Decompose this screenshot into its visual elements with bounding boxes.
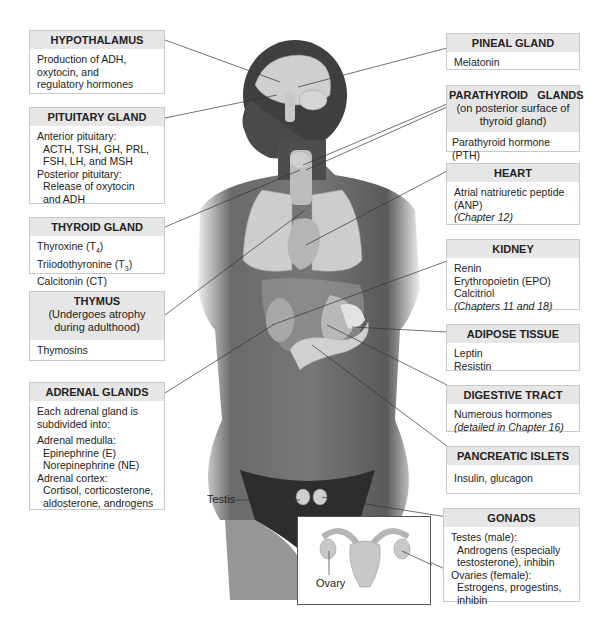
text-line: Adrenal cortex: [37, 472, 157, 485]
thymus-box: THYMUS (Undergoes atrophy during adultho… [29, 291, 165, 361]
text-line: inhibin [451, 594, 572, 607]
text-line: Estrogens, progestins, [451, 581, 572, 594]
text-line: oxytocin, and [37, 66, 157, 79]
text-line: and ADH [37, 193, 157, 206]
kidney-box: KIDNEY Renin Erythropoietin (EPO) Calcit… [446, 239, 580, 310]
heart-title: HEART [447, 164, 579, 182]
text-line: Production of ADH, [37, 53, 157, 66]
thyroid-title: THYROID GLAND [30, 218, 164, 236]
parathyroid-title: PARATHYROID GLANDS [449, 89, 584, 101]
chapter-reference: (Chapters 11 and 18) [454, 300, 572, 313]
text-line: Thymosins [37, 344, 157, 357]
thymus-title: THYMUS [74, 295, 120, 307]
text-line: regulatory hormones [37, 78, 157, 91]
parathyroid-box: PARATHYROID GLANDS (on posterior surface… [446, 85, 580, 152]
text-line: Triiodothyronine (T3) [37, 258, 157, 276]
text-line: Erythropoietin (EPO) [454, 275, 572, 288]
pituitary-title: PITUITARY GLAND [30, 108, 164, 126]
thyroid-box: THYROID GLAND Thyroxine (T4) Triiodothyr… [29, 217, 165, 274]
parathyroid-subtitle: (on posterior surface of [449, 102, 577, 115]
adipose-title: ADIPOSE TISSUE [447, 325, 579, 343]
ovary-label: Ovary [316, 577, 345, 589]
pancreatic-box: PANCREATIC ISLETS Insulin, glucagon [446, 446, 580, 494]
adrenal-box: ADRENAL GLANDS Each adrenal gland is sub… [29, 382, 165, 510]
text-line: aldosterone, androgens [37, 497, 157, 510]
ovary-inset: Ovary [297, 516, 431, 605]
text-line: Each adrenal gland is [37, 405, 157, 418]
text-line: Thyroxine (T4) [37, 240, 157, 258]
text-line: Numerous hormones [454, 408, 572, 421]
text-line: Androgens (especially [451, 544, 572, 557]
text-line: Adrenal medulla: [37, 434, 157, 447]
hypothalamus-title: HYPOTHALAMUS [30, 31, 164, 49]
heart-box: HEART Atrial natriuretic peptide (ANP) (… [446, 163, 580, 225]
text-line: (ANP) [454, 199, 572, 212]
text-line: Melatonin [454, 56, 572, 69]
pineal-box: PINEAL GLAND Melatonin [446, 33, 580, 70]
text-line: Release of oxytocin [37, 180, 157, 193]
testis-label: Testis [207, 493, 235, 505]
text-line: Anterior pituitary: [37, 130, 157, 143]
text-line: Atrial natriuretic peptide [454, 186, 572, 199]
text-line: Testes (male): [451, 531, 572, 544]
text-line: Renin [454, 262, 572, 275]
text-line: Insulin, glucagon [454, 472, 572, 485]
kidney-title: KIDNEY [447, 240, 579, 258]
chapter-reference: (Chapter 12) [454, 211, 572, 224]
text-line: Leptin [454, 347, 572, 360]
text-line: Norepinephrine (NE) [37, 459, 157, 472]
uterus-illustration [298, 517, 432, 606]
text-line: ACTH, TSH, GH, PRL, [37, 143, 157, 156]
text-line: subdivided into: [37, 418, 157, 431]
text-line: Posterior pituitary: [37, 168, 157, 181]
pituitary-box: PITUITARY GLAND Anterior pituitary: ACTH… [29, 107, 165, 204]
text-line: Resistin [454, 360, 572, 373]
adrenal-title: ADRENAL GLANDS [30, 383, 164, 401]
text-line: Ovaries (female): [451, 569, 572, 582]
text-line: Parathyroid hormone (PTH) [452, 136, 572, 161]
digestive-title: DIGESTIVE TRACT [447, 386, 579, 404]
adipose-box: ADIPOSE TISSUE Leptin Resistin [446, 324, 580, 371]
hypothalamus-box: HYPOTHALAMUS Production of ADH, oxytocin… [29, 30, 165, 94]
gonads-title: GONADS [444, 509, 579, 527]
gonads-box: GONADS Testes (male): Androgens (especia… [443, 508, 580, 602]
thymus-subtitle: (Undergoes atrophy [32, 308, 162, 321]
pineal-title: PINEAL GLAND [447, 34, 579, 52]
text-line: Calcitriol [454, 287, 572, 300]
text-line: testosterone), inhibin [451, 556, 572, 569]
pancreatic-title: PANCREATIC ISLETS [447, 447, 579, 465]
text-line: Calcitonin (CT) [37, 275, 157, 288]
digestive-box: DIGESTIVE TRACT Numerous hormones (detai… [446, 385, 580, 432]
parathyroid-subtitle: thyroid gland) [449, 115, 577, 128]
text-line: Cortisol, corticosterone, [37, 484, 157, 497]
text-line: FSH, LH, and MSH [37, 155, 157, 168]
text-line: Epinephrine (E) [37, 447, 157, 460]
thymus-subtitle: during adulthood) [32, 321, 162, 334]
chapter-reference: (detailed in Chapter 16) [454, 421, 572, 434]
